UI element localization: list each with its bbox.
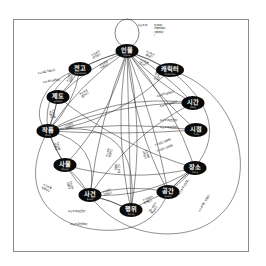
edge-label: A는 B와 관련된다: [160, 118, 178, 122]
node-sublabel: Time: [193, 133, 199, 136]
node-sublabel: System: [54, 100, 63, 103]
node-character: 캐릭터Character: [156, 63, 184, 77]
node-sublabel: Event: [87, 198, 94, 201]
node-space: 공간Space: [157, 185, 180, 199]
node-doing: 행위Doing: [120, 203, 143, 217]
node-sublabel: Date: [190, 106, 196, 109]
node-precedent: 전고Precedent: [69, 62, 92, 76]
edge-label-text: A는 B와 관련된다: [68, 209, 86, 213]
self-loop-note-text: A는 B와: [138, 23, 148, 27]
edge-label: A는 B와관련된다: [160, 125, 178, 129]
edge-label-text: A는 B와관련된다: [160, 125, 178, 129]
edge-label-text: 행하다: [114, 164, 118, 171]
node-figure: 인물Figure: [116, 44, 139, 58]
knowledge-graph-diagram: A는 B와관련된다A는 B를인용하다A는 B를 인용하다A는 B와 관련된다A는…: [0, 0, 266, 266]
node-system: 제도System: [47, 90, 70, 104]
node-time: 시점Time: [185, 123, 208, 137]
edge-label-text: A는 B를 인용하다: [70, 222, 88, 226]
edge-label: A는 B를 인용하다: [70, 222, 88, 226]
node-place: 장소Place: [184, 161, 207, 175]
node-sublabel: Precedent: [74, 72, 86, 75]
node-event: 사건Event: [79, 188, 102, 202]
node-work: 작품Work: [37, 124, 60, 138]
node-sublabel: Work: [45, 134, 51, 137]
node-sublabel: Place: [192, 171, 199, 174]
node-sublabel: Character: [164, 73, 175, 76]
node-sublabel: Space: [165, 195, 173, 198]
self-loop-note-text: /: [154, 33, 155, 37]
node-object: 사물Object: [54, 158, 77, 172]
self-loop-note-text: /제자이다: [154, 30, 164, 34]
node-sublabel: Object: [61, 168, 69, 171]
node-sublabel: Doing: [128, 213, 135, 216]
edge-label-text: A는 B와 관련된다: [160, 118, 178, 122]
node-sublabel: Figure: [123, 54, 131, 57]
self-loop-note-text: 친구이다: [154, 23, 163, 27]
edge-label: A는 B와 관련된다: [68, 209, 86, 213]
node-date: 시간Date: [182, 96, 205, 110]
